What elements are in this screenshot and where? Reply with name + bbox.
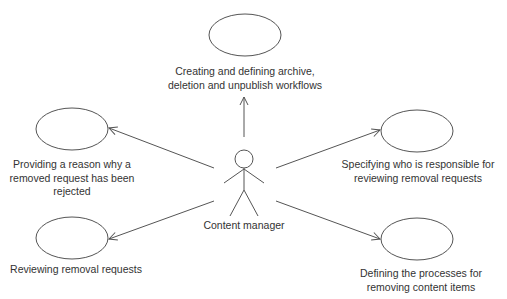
association-left-lower [109,201,214,239]
label-line: reviewing removal requests [342,172,495,186]
use-case-label-top: Creating and defining archive, deletion … [168,65,322,92]
use-case-ellipse-left-upper [36,108,108,150]
use-case-ellipse-right-upper [381,110,453,152]
label-line: Reviewing removal requests [10,263,142,277]
use-case-label-right-upper: Specifying who is responsible for review… [342,158,495,185]
label-line: Specifying who is responsible for [342,158,495,172]
use-case-ellipse-left-lower [36,217,108,259]
actor-stick-figure-icon [224,150,264,216]
use-case-ellipse-right-lower [381,218,453,260]
association-right-lower [276,201,380,239]
label-line: Providing a reason why a [10,158,135,172]
use-case-ellipse-top [209,14,281,56]
label-line: deletion and unpublish workflows [168,79,322,93]
actor-label: Content manager [203,219,284,233]
use-case-label-left-upper: Providing a reason why a removed request… [10,158,135,199]
use-case-diagram [0,0,507,299]
use-case-label-right-lower: Defining the processes for removing cont… [360,267,482,294]
label-line: Defining the processes for [360,267,482,281]
label-line: removing content items [360,281,482,295]
label-line: rejected [10,185,135,199]
label-line: removed request has been [10,172,135,186]
label-line: Creating and defining archive, [168,65,322,79]
use-case-label-left-lower: Reviewing removal requests [10,263,142,277]
